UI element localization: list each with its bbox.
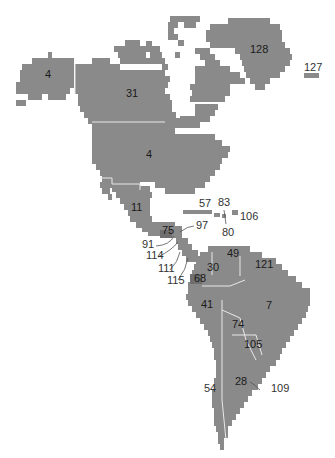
region-label-paraguay[interactable]: 105 <box>244 338 262 350</box>
region-label-greenland[interactable]: 128 <box>250 43 268 55</box>
region-label-puerto-rico[interactable]: 106 <box>240 210 258 222</box>
south-america-cell <box>212 402 244 408</box>
alaska-cell <box>16 100 26 106</box>
canada-cell <box>92 58 110 64</box>
greenland-cell <box>210 42 285 48</box>
usa-cell <box>92 146 230 152</box>
canada-cell <box>180 116 210 122</box>
canada-cell <box>78 100 172 106</box>
south-america-cell <box>204 324 298 330</box>
region-label-nicaragua[interactable]: 111 <box>158 262 175 274</box>
south-america-cell <box>220 444 224 450</box>
south-america-cell <box>216 366 270 372</box>
greenland-cell <box>228 18 270 24</box>
south-america-cell <box>200 318 302 324</box>
alaska-cell <box>32 58 74 64</box>
canada-cell <box>84 112 176 118</box>
canada-cell <box>125 40 140 46</box>
region-label-brazil[interactable]: 7 <box>266 299 272 311</box>
region-label-guyana-region[interactable]: 121 <box>255 258 273 270</box>
canada-cell <box>190 96 225 102</box>
south-america-cell <box>196 312 306 318</box>
region-label-mexico[interactable]: 11 <box>131 201 142 213</box>
arctic-cell <box>200 54 215 60</box>
region-label-peru[interactable]: 41 <box>201 298 213 310</box>
south-america-cell <box>218 432 228 438</box>
south-america-cell <box>214 408 240 414</box>
greenland-cell <box>255 84 265 90</box>
region-label-cuba[interactable]: 57 <box>199 197 211 209</box>
canada-cell <box>120 58 165 64</box>
region-label-canada[interactable]: 31 <box>126 87 138 99</box>
greenland-cell <box>210 24 280 30</box>
alaska-cell <box>16 88 70 94</box>
arctic-cell <box>184 22 196 28</box>
canada-cell <box>195 78 245 84</box>
arctic-cell <box>195 48 210 54</box>
south-america-cell <box>214 414 236 420</box>
region-label-colombia[interactable]: 30 <box>207 261 219 273</box>
arctic-cell <box>205 60 220 66</box>
arctic-cell <box>170 16 200 22</box>
mexico-cell <box>116 192 152 198</box>
arctic-cell <box>168 34 178 40</box>
central-america-cell <box>176 238 188 244</box>
region-label-venezuela[interactable]: 49 <box>227 247 239 259</box>
greenland-cell <box>206 36 282 42</box>
region-label-honduras[interactable]: 114 <box>146 249 164 261</box>
usa-cell <box>100 170 215 176</box>
canada-cell <box>150 52 162 58</box>
usa-cell <box>92 158 222 164</box>
canada-cell <box>118 52 146 58</box>
greenland-cell <box>244 66 285 72</box>
canada-cell <box>190 84 230 90</box>
alaska-cell <box>48 94 66 100</box>
arctic-cell <box>178 40 184 46</box>
arctic-cell <box>168 22 178 28</box>
region-label-belize[interactable]: 97 <box>196 219 208 231</box>
alaska-cell <box>48 52 52 58</box>
canada-cell <box>192 90 230 96</box>
greenland-cell <box>246 72 280 78</box>
region-label-bolivia[interactable]: 74 <box>232 318 244 330</box>
region-label-usa[interactable]: 4 <box>146 148 152 160</box>
region-label-alaska[interactable]: 4 <box>45 68 51 80</box>
usa-cell <box>92 140 222 146</box>
greenland-cell <box>242 60 290 66</box>
canada-cell <box>195 110 215 116</box>
usa-cell <box>92 134 215 140</box>
region-label-iceland[interactable]: 127 <box>304 61 322 73</box>
canada-cell <box>195 72 240 78</box>
region-label-guatemala[interactable]: 75 <box>162 224 174 236</box>
canada-cell <box>78 94 170 100</box>
canada-cell <box>114 46 160 52</box>
region-label-chile[interactable]: 54 <box>204 382 216 394</box>
caribbean-cell <box>183 210 212 214</box>
region-label-ecuador[interactable]: 68 <box>194 272 206 284</box>
canada-cell <box>75 88 165 94</box>
mexico-cell <box>102 176 108 182</box>
canada-cell <box>75 70 165 76</box>
region-label-argentina[interactable]: 28 <box>235 375 247 387</box>
mexico-cell <box>102 188 110 194</box>
usa-cell <box>92 128 175 134</box>
south-america-cell <box>214 354 280 360</box>
region-label-costa-rica-panama[interactable]: 115 <box>167 274 185 286</box>
south-america-cell <box>216 426 228 432</box>
usa-cell <box>92 122 165 128</box>
greenland-cell <box>206 30 282 36</box>
region-label-haiti[interactable]: 83 <box>218 196 230 208</box>
usa-cell <box>155 182 205 188</box>
region-label-dominican-republic[interactable]: 80 <box>222 226 234 238</box>
south-america-cell <box>214 420 232 426</box>
region-label-uruguay[interactable]: 109 <box>271 382 289 394</box>
canada-cell <box>75 76 170 82</box>
mexico-cell <box>100 182 112 188</box>
central-america-cell <box>178 244 192 250</box>
south-america-cell <box>212 390 252 396</box>
caribbean-cell <box>232 210 238 215</box>
usa-cell <box>92 152 228 158</box>
south-america-cell <box>218 438 224 444</box>
canada-cell <box>80 106 172 112</box>
south-america-cell <box>216 360 276 366</box>
